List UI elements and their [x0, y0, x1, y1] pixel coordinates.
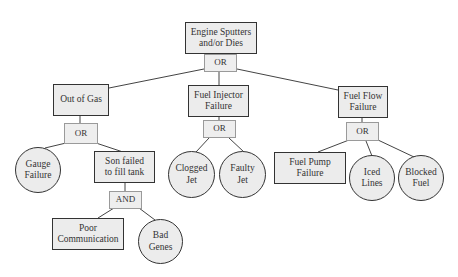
event-fuel-flow-failure: Fuel Flow Failure [338, 86, 388, 118]
fuel-injector-or-gate: OR [203, 120, 236, 138]
event-label-line1: Blocked [405, 167, 437, 179]
event-label-line1: Bad [153, 230, 168, 242]
event-label: Out of Gas [60, 94, 102, 106]
top-event-engine-sputters: Engine Sputters and/or Dies [185, 22, 257, 54]
event-poor-communication: Poor Communication [52, 218, 124, 250]
event-label-line1: Clogged [175, 163, 207, 175]
event-label-line2: Genes [149, 242, 173, 254]
gate-label: OR [356, 126, 369, 138]
son-failed-and-gate: AND [109, 191, 142, 209]
event-label-line1: Iced [364, 167, 380, 179]
event-label-line2: Jet [237, 175, 248, 187]
event-label-line1: Fuel Flow [344, 91, 383, 103]
event-label-line1: Gauge [26, 159, 51, 171]
event-label-line1: Fuel Injector [194, 90, 243, 102]
event-son-failed-to-fill-tank: Son failed to fill tank [94, 151, 155, 183]
gate-label: OR [75, 128, 88, 140]
event-label-line1: Fuel Pump [289, 157, 330, 169]
event-out-of-gas: Out of Gas [53, 84, 109, 116]
top-event-line1: Engine Sputters [191, 27, 251, 39]
top-or-gate: OR [204, 54, 237, 72]
event-label-line2: Failure [350, 102, 377, 114]
event-label-line1: Faulty [230, 163, 254, 175]
event-label-line2: Jet [186, 175, 197, 187]
event-label-line2: to fill tank [105, 167, 145, 179]
event-label-line1: Poor [79, 223, 97, 235]
out-of-gas-or-gate: OR [64, 123, 98, 144]
event-fuel-injector-failure: Fuel Injector Failure [188, 85, 249, 117]
basic-event-blocked-fuel: Blocked Fuel [398, 155, 444, 201]
event-label-line2: Failure [297, 168, 324, 180]
event-label-line2: Failure [25, 170, 52, 182]
basic-event-iced-lines: Iced Lines [349, 155, 395, 201]
basic-event-gauge-failure: Gauge Failure [15, 147, 61, 193]
basic-event-clogged-jet: Clogged Jet [168, 151, 215, 198]
event-label-line2: Failure [205, 101, 232, 113]
gate-label: AND [116, 194, 136, 206]
event-label-line1: Son failed [105, 156, 144, 168]
basic-event-faulty-jet: Faulty Jet [219, 151, 266, 198]
basic-event-bad-genes: Bad Genes [138, 219, 183, 264]
event-fuel-pump-failure: Fuel Pump Failure [274, 152, 346, 184]
event-label-line2: Fuel [413, 178, 430, 190]
gate-label: OR [213, 123, 226, 135]
top-event-line2: and/or Dies [199, 38, 243, 50]
event-label-line2: Communication [57, 234, 118, 246]
event-label-line2: Lines [361, 178, 382, 190]
fuel-flow-or-gate: OR [346, 122, 379, 141]
gate-label: OR [214, 57, 227, 69]
